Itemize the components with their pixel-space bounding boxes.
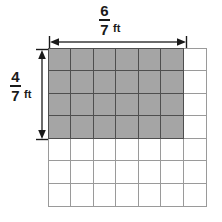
grid-cell-shaded xyxy=(49,49,71,71)
width-numerator: 6 xyxy=(99,3,109,18)
grid-cell xyxy=(49,139,71,161)
grid-cell-shaded xyxy=(139,94,161,116)
grid-cell xyxy=(116,161,138,183)
grid-cell xyxy=(71,184,93,206)
grid-cell xyxy=(49,184,71,206)
grid-cell-shaded xyxy=(116,49,138,71)
unit-grid xyxy=(48,48,207,207)
grid-cell-shaded xyxy=(49,71,71,93)
grid-cell xyxy=(71,139,93,161)
grid-cell-shaded xyxy=(139,71,161,93)
grid-cell-shaded xyxy=(161,94,183,116)
grid-cell-shaded xyxy=(116,116,138,138)
grid-cell xyxy=(184,184,206,206)
grid-cell-shaded xyxy=(161,71,183,93)
grid-cell-shaded xyxy=(161,116,183,138)
grid-cell-shaded xyxy=(161,49,183,71)
height-denominator: 7 xyxy=(10,88,20,103)
grid-cell-shaded xyxy=(116,94,138,116)
grid-cell xyxy=(116,184,138,206)
grid-cell xyxy=(49,161,71,183)
height-unit-label: ft xyxy=(24,89,31,103)
grid-cell xyxy=(184,139,206,161)
area-model-figure: 6 7 ft 4 7 ft xyxy=(0,0,222,222)
grid-cell xyxy=(184,161,206,183)
grid-cell-shaded xyxy=(49,116,71,138)
grid-cell-shaded xyxy=(71,94,93,116)
height-numerator: 4 xyxy=(10,69,20,84)
grid-cell xyxy=(94,161,116,183)
grid-cell-shaded xyxy=(116,71,138,93)
grid-cell xyxy=(116,139,138,161)
grid-cell xyxy=(94,139,116,161)
grid-cell-shaded xyxy=(139,116,161,138)
grid-cell-shaded xyxy=(94,49,116,71)
height-dimension-arrow xyxy=(32,44,48,192)
grid-cell xyxy=(161,161,183,183)
grid-cell xyxy=(161,139,183,161)
grid-cell-shaded xyxy=(49,94,71,116)
grid-cell xyxy=(184,71,206,93)
grid-cell xyxy=(184,94,206,116)
grid-cell xyxy=(139,161,161,183)
grid-cell-shaded xyxy=(71,71,93,93)
grid-cell xyxy=(139,184,161,206)
grid-cell xyxy=(139,139,161,161)
grid-cell xyxy=(184,49,206,71)
grid-cell-shaded xyxy=(139,49,161,71)
grid-cell xyxy=(94,184,116,206)
grid-cell xyxy=(71,161,93,183)
height-fraction: 4 7 xyxy=(10,69,21,103)
grid-container xyxy=(48,48,207,207)
grid-cell-shaded xyxy=(94,116,116,138)
grid-cell xyxy=(161,184,183,206)
grid-cell-shaded xyxy=(94,71,116,93)
grid-cell xyxy=(184,116,206,138)
grid-cell-shaded xyxy=(71,49,93,71)
grid-cell-shaded xyxy=(94,94,116,116)
height-dimension-label: 4 7 ft xyxy=(10,69,31,103)
grid-cell-shaded xyxy=(71,116,93,138)
width-dimension-arrow xyxy=(44,32,192,48)
